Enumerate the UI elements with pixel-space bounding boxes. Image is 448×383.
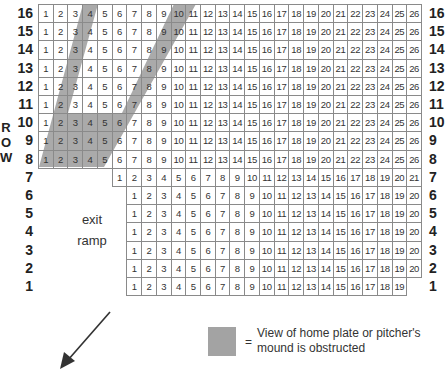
legend-swatch <box>208 327 236 356</box>
legend-equals: = <box>245 335 252 349</box>
legend-text: View of home plate or pitcher's mound is… <box>257 326 437 356</box>
seating-chart: 1234567891011121314151617181920212223242… <box>0 0 448 383</box>
